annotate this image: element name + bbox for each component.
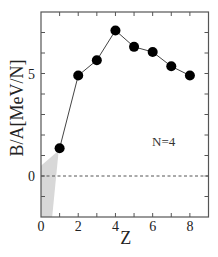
x-tick-label: 6 [149, 219, 156, 234]
y-tick-label: 5 [28, 67, 35, 82]
shaded-region [41, 150, 59, 217]
data-point-marker [148, 47, 158, 57]
y-tick-label: 0 [28, 169, 35, 184]
data-point-marker [110, 25, 120, 35]
data-point-marker [92, 55, 102, 65]
data-point-marker [73, 71, 83, 81]
x-tick-label: 8 [186, 219, 193, 234]
data-point-marker [129, 42, 139, 52]
x-tick-label: 2 [75, 219, 82, 234]
series-line [60, 30, 190, 148]
shaded-polygon [41, 150, 59, 217]
data-point-marker [166, 61, 176, 71]
y-axis-label: B/A[MeV/N] [7, 60, 27, 157]
data-point-marker [55, 143, 65, 153]
chart: 0246805 Z B/A[MeV/N] N=4 [0, 0, 218, 257]
x-axis-label: Z [120, 228, 131, 248]
x-tick-label: 0 [38, 219, 45, 234]
data-point-marker [185, 71, 195, 81]
annotation-n4: N=4 [152, 134, 176, 149]
x-tick-label: 4 [112, 219, 119, 234]
axis-ticks [41, 12, 209, 217]
plot-frame [41, 12, 209, 217]
